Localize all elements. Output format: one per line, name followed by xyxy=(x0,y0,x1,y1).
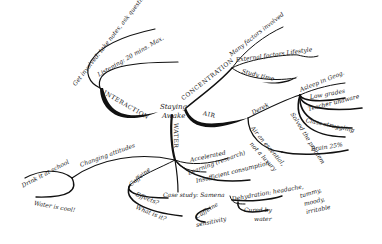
central-node-awake: Awake xyxy=(162,113,185,120)
label-water: WATER xyxy=(173,123,179,148)
label-case-study: Case study: Samena xyxy=(163,192,225,198)
central-node-staying: Staying xyxy=(160,104,187,111)
label-cured-by: Cured by xyxy=(244,207,272,213)
branch-water-cool xyxy=(36,178,74,197)
branch-case-study xyxy=(175,160,178,192)
branch-air xyxy=(184,108,248,127)
label-water-lc: water xyxy=(254,216,272,222)
